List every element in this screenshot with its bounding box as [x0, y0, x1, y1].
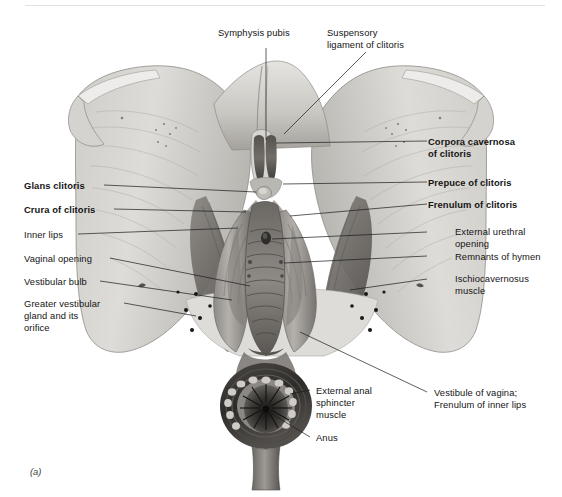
label-corpora-cavernosa-line1: Corpora cavernosa	[428, 136, 515, 148]
label-external-anal-sphincter-line3: muscle	[316, 409, 346, 421]
label-external-anal-sphincter-line1: External anal	[316, 385, 372, 397]
label-crura-of-clitoris: Crura of clitoris	[24, 204, 95, 216]
label-greater-vestibular-gland-line3: orifice	[24, 322, 50, 334]
label-external-urethral-opening-line1: External urethral	[455, 226, 525, 238]
label-external-urethral-opening-line2: opening	[455, 238, 489, 250]
label-greater-vestibular-gland-line2: gland and its	[24, 310, 78, 322]
label-inner-lips: Inner lips	[24, 229, 63, 241]
label-vestibular-bulb: Vestibular bulb	[24, 276, 87, 288]
label-suspensory-ligament-line2: ligament of clitoris	[327, 39, 404, 51]
label-frenulum-of-clitoris: Frenulum of clitoris	[428, 199, 517, 211]
label-symphysis-pubis: Symphysis pubis	[218, 27, 290, 39]
anal-region	[220, 352, 312, 490]
label-suspensory-ligament-line1: Suspensory	[327, 27, 377, 39]
label-prepuce-of-clitoris: Prepuce of clitoris	[428, 177, 512, 189]
label-remnants-of-hymen: Remnants of hymen	[455, 251, 541, 263]
label-vaginal-opening: Vaginal opening	[24, 253, 92, 265]
label-corpora-cavernosa-line2: of clitoris	[428, 148, 471, 160]
label-external-anal-sphincter-line2: sphincter	[316, 397, 355, 409]
label-greater-vestibular-gland-line1: Greater vestibular	[24, 298, 100, 310]
label-anus: Anus	[316, 432, 338, 444]
figure-caption: (a)	[30, 466, 41, 477]
label-ischiocavernosus-muscle-line2: muscle	[455, 285, 485, 297]
label-glans-clitoris: Glans clitoris	[24, 180, 85, 192]
label-vestibule-of-vagina-line2: Frenulum of inner lips	[434, 399, 526, 411]
label-vestibule-of-vagina-line1: Vestibule of vagina;	[434, 387, 517, 399]
label-ischiocavernosus-muscle-line1: Ischiocavernosus	[455, 273, 529, 285]
